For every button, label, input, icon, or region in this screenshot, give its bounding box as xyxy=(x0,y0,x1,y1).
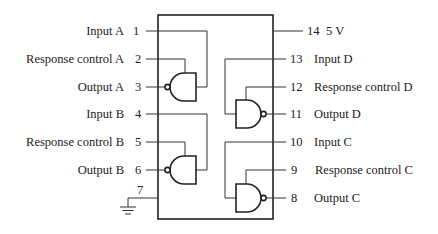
inversion-bubble xyxy=(165,84,170,89)
pin-7-wire xyxy=(128,198,158,207)
nand-gate-d xyxy=(225,59,273,128)
nand-gate-b xyxy=(158,114,207,184)
left-pin-labels: Input A 1 Response control A 2 Output A … xyxy=(26,24,143,197)
pin-10-number: 10 xyxy=(290,135,303,149)
pin-5-number: 5 xyxy=(135,135,141,149)
pin-8-number: 8 xyxy=(291,191,297,205)
pin-2-label: Response control A xyxy=(26,52,124,66)
pin-14-label: 5 V xyxy=(326,24,344,38)
nand-ic-diagram: Input A 1 Response control A 2 Output A … xyxy=(0,0,438,234)
pin-13-label: Input D xyxy=(314,52,353,66)
pin-11-number: 11 xyxy=(290,107,302,121)
left-pin-wires xyxy=(128,31,158,207)
pin-12-label: Response control D xyxy=(314,80,413,94)
pin-12-number: 12 xyxy=(290,80,303,94)
inversion-bubble xyxy=(261,195,266,200)
pin-3-number: 3 xyxy=(135,80,141,94)
pin-14-number: 14 xyxy=(307,24,320,38)
pin-1-number: 1 xyxy=(133,24,139,38)
pin-7-number: 7 xyxy=(137,183,143,197)
ground-icon xyxy=(120,207,136,214)
right-pin-labels: 14 5 V 13 Input D 12 Response control D … xyxy=(290,24,413,205)
nand-gate-a xyxy=(158,31,207,101)
inversion-bubble xyxy=(165,167,170,172)
pin-6-label: Output B xyxy=(78,163,124,177)
pin-5-label: Response control B xyxy=(26,135,124,149)
pin-4-label: Input B xyxy=(86,107,124,121)
pin-9-number: 9 xyxy=(291,163,297,177)
pin-8-label: Output C xyxy=(314,191,360,205)
pin-11-label: Output D xyxy=(314,107,361,121)
pin-6-number: 6 xyxy=(135,163,141,177)
pin-4-number: 4 xyxy=(135,107,142,121)
pin-13-number: 13 xyxy=(290,52,303,66)
inversion-bubble xyxy=(261,111,266,116)
pin-10-label: Input C xyxy=(314,135,352,149)
pin-2-number: 2 xyxy=(135,52,141,66)
pin-3-label: Output A xyxy=(78,80,124,94)
nand-gate-c xyxy=(225,142,273,212)
pin-9-label: Response control C xyxy=(315,163,413,177)
pin-1-label: Input A xyxy=(86,24,124,38)
